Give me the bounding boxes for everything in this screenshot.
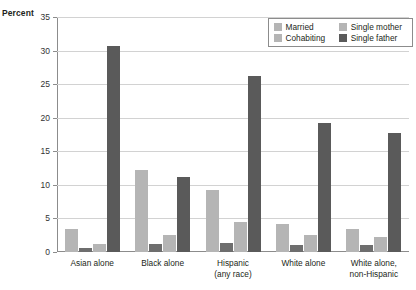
- bar-set: [127, 17, 197, 252]
- bar[interactable]: [374, 237, 387, 252]
- bar-set: [268, 17, 338, 252]
- bar[interactable]: [318, 123, 331, 252]
- legend-swatch-icon: [274, 34, 282, 42]
- legend-item[interactable]: Single mother: [339, 22, 408, 32]
- y-axis-tick-label: 5: [45, 213, 50, 223]
- chart-legend: MarriedSingle motherCohabitingSingle fat…: [268, 18, 413, 47]
- legend-item[interactable]: Single father: [339, 33, 408, 43]
- x-axis-category-label: White alone: [282, 258, 326, 269]
- y-axis-tick-mark: [53, 252, 57, 253]
- legend-label: Married: [286, 22, 314, 32]
- bar[interactable]: [248, 76, 261, 252]
- bar[interactable]: [276, 224, 289, 252]
- legend-label: Single father: [351, 33, 398, 43]
- y-axis-tick-label: 10: [41, 180, 50, 190]
- bar[interactable]: [206, 190, 219, 252]
- legend-swatch-icon: [339, 23, 347, 31]
- bar-group: White alone,non-Hispanic: [339, 17, 409, 252]
- y-axis-tick-label: 35: [41, 12, 50, 22]
- legend-label: Cohabiting: [286, 33, 326, 43]
- x-axis-category-label: White alone,non-Hispanic: [350, 258, 398, 279]
- bar[interactable]: [234, 222, 247, 252]
- y-axis-tick-label: 15: [41, 146, 50, 156]
- bar[interactable]: [107, 46, 120, 252]
- bar[interactable]: [163, 235, 176, 252]
- bar-groups: Asian aloneBlack aloneHispanic(any race)…: [57, 17, 409, 252]
- bar-set: [339, 17, 409, 252]
- chart-container: Percent 05101520253035 Asian aloneBlack …: [0, 0, 416, 290]
- bar[interactable]: [304, 235, 317, 252]
- bar-group: Black alone: [127, 17, 197, 252]
- bar[interactable]: [360, 245, 373, 252]
- legend-item[interactable]: Cohabiting: [274, 33, 331, 43]
- bar-group: Hispanic(any race): [198, 17, 268, 252]
- legend-label: Single mother: [351, 22, 402, 32]
- bar[interactable]: [388, 133, 401, 253]
- legend-swatch-icon: [274, 23, 282, 31]
- bar[interactable]: [65, 229, 78, 253]
- y-axis-title: Percent: [2, 8, 34, 18]
- y-axis-tick-label: 20: [41, 113, 50, 123]
- legend-item[interactable]: Married: [274, 22, 331, 32]
- bar[interactable]: [149, 244, 162, 252]
- bar[interactable]: [135, 170, 148, 252]
- bar[interactable]: [346, 229, 359, 253]
- y-axis-tick-label: 30: [41, 46, 50, 56]
- legend-swatch-icon: [339, 34, 347, 42]
- bar[interactable]: [290, 245, 303, 252]
- y-axis-tick-label: 25: [41, 79, 50, 89]
- bar-set: [57, 17, 127, 252]
- y-axis-tick-label: 0: [45, 247, 50, 257]
- x-axis-category-label: Hispanic(any race): [214, 258, 251, 279]
- bar[interactable]: [220, 243, 233, 252]
- bar-group: White alone: [268, 17, 338, 252]
- bar[interactable]: [79, 248, 92, 252]
- bar-group: Asian alone: [57, 17, 127, 252]
- x-axis-category-label: Asian alone: [71, 258, 114, 269]
- x-axis-category-label: Black alone: [141, 258, 184, 269]
- bar-set: [198, 17, 268, 252]
- bar[interactable]: [93, 244, 106, 252]
- bar[interactable]: [177, 177, 190, 252]
- plot-area: 05101520253035 Asian aloneBlack aloneHis…: [57, 17, 409, 252]
